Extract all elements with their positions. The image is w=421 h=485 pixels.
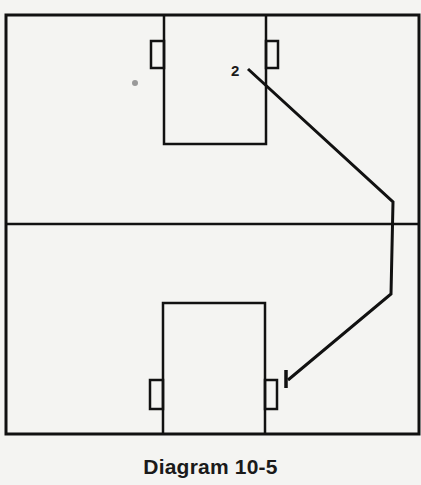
player-label: 2 <box>231 62 239 79</box>
top-box-left-tab <box>151 41 164 68</box>
bottom-box-left-tab <box>150 380 163 409</box>
top-box-right-tab <box>266 41 278 68</box>
bottom-box-right-tab <box>265 380 277 409</box>
bottom-box <box>150 303 277 434</box>
court-diagram: 2 <box>0 0 421 485</box>
diagram-caption: Diagram 10-5 <box>0 455 421 479</box>
print-speck <box>132 80 138 86</box>
